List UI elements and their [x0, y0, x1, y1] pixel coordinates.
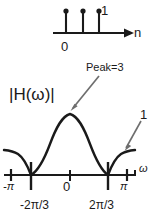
tick-label-minus-pi: -π: [3, 181, 14, 192]
tick-label-pi: π: [120, 181, 127, 192]
edge-annotation-label: 1: [140, 108, 147, 121]
tick-label-zero: 0: [63, 180, 70, 193]
stem-origin-label: 0: [61, 40, 68, 53]
edge-annotation-arrow: [125, 121, 142, 151]
peak-annotation-arrow: [71, 76, 100, 111]
stem-plot: [53, 8, 134, 37]
tick-label-two-pi-over-three: 2π/3: [89, 199, 114, 211]
stem-axis-label-n: n: [134, 26, 141, 39]
magnitude-axis-label-omega: ω: [139, 163, 148, 174]
stem-sample-0: [63, 8, 68, 33]
magnitude-side-lobe-right: [108, 150, 135, 175]
signal-processing-figure: 1 0 n Peak=3 |H(ω)| 1 ω -π 0 π -2π/3 2π/…: [0, 0, 155, 221]
stem-sample-1: [80, 8, 85, 33]
magnitude-main-lobe: [31, 114, 108, 175]
magnitude-side-lobe-left: [4, 150, 31, 175]
figure-canvas: [0, 0, 155, 221]
magnitude-y-axis-label: |H(ω)|: [9, 86, 55, 103]
tick-label-minus-two-pi-over-three: -2π/3: [20, 199, 49, 211]
stem-amplitude-label: 1: [101, 4, 108, 17]
peak-annotation-label: Peak=3: [86, 62, 124, 73]
